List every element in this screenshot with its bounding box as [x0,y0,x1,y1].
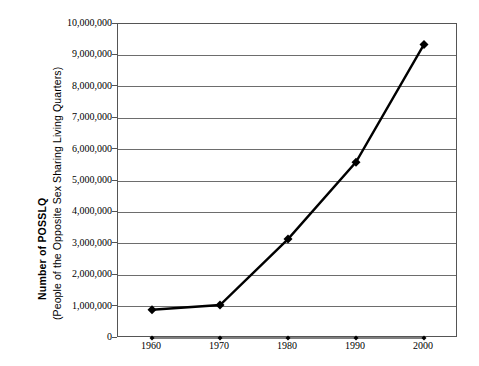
y-axis-tick-label: 9,000,000 [54,49,112,59]
y-axis-tick-label: 7,000,000 [54,112,112,122]
y-axis-tick-label: 0 [54,332,112,342]
y-axis-tick-label: 4,000,000 [54,206,112,216]
plot-area [117,23,457,337]
x-axis-tick-label: 1990 [345,340,365,351]
y-axis-title-main: Number of POSSLQ [36,198,48,300]
y-axis-tick-label: 10,000,000 [54,18,112,28]
y-axis-tick-label: 5,000,000 [54,175,112,185]
chart-screenshot: Number of POSSLQ (People of the Opposite… [0,0,479,366]
data-layer [118,24,458,338]
y-axis-title: Number of POSSLQ (People of the Opposite… [0,0,60,366]
series-line-0 [152,44,424,309]
x-axis-tick-label: 2000 [413,340,433,351]
x-axis-tick-labels: 19601970198019902000 [117,340,457,362]
data-point-marker [148,305,157,314]
y-axis-tick-label: 6,000,000 [54,144,112,154]
x-axis-tick-label: 1960 [141,340,161,351]
y-axis-tick-label: 1,000,000 [54,301,112,311]
y-axis-tick-labels: 01,000,0002,000,0003,000,0004,000,0005,0… [54,0,112,366]
x-axis-tick-label: 1980 [277,340,297,351]
y-axis-tick-label: 2,000,000 [54,269,112,279]
y-axis-tick-label: 8,000,000 [54,81,112,91]
y-axis-tick-label: 3,000,000 [54,238,112,248]
x-axis-tick-label: 1970 [209,340,229,351]
